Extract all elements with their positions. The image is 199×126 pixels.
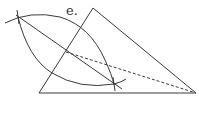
dashed-median-line — [66, 52, 196, 93]
geometry-construction — [0, 0, 199, 126]
upper-arc — [5, 15, 114, 85]
triangle — [39, 8, 196, 93]
